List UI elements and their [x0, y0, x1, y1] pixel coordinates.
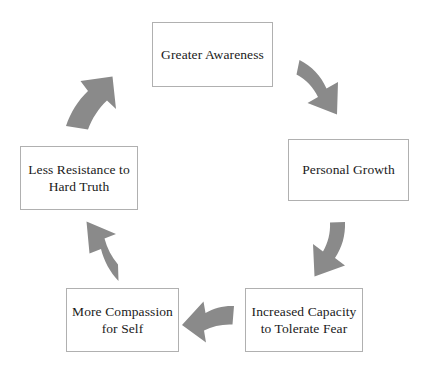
node-label-line2: for Self — [72, 320, 173, 337]
node-label-line1: Increased Capacity — [252, 303, 357, 320]
node-less-resistance: Less Resistance to Hard Truth — [20, 146, 138, 210]
node-label-line2: Hard Truth — [28, 178, 130, 195]
node-greater-awareness: Greater Awareness — [152, 22, 273, 87]
arrow-capacity-to-compassion — [182, 302, 234, 343]
arrow-compassion-to-resistance — [87, 222, 119, 282]
node-label-line1: Greater Awareness — [161, 46, 264, 63]
arrow-resistance-to-awareness — [66, 77, 116, 130]
arrow-awareness-to-growth — [297, 60, 339, 115]
node-increased-capacity: Increased Capacity to Tolerate Fear — [245, 288, 363, 352]
node-personal-growth: Personal Growth — [288, 139, 409, 201]
node-label-line1: Personal Growth — [302, 161, 395, 178]
node-label-line1: Less Resistance to — [28, 161, 130, 178]
node-label-line1: More Compassion — [72, 303, 173, 320]
node-more-compassion: More Compassion for Self — [66, 288, 179, 352]
arrow-growth-to-capacity — [313, 222, 345, 277]
node-label-line2: to Tolerate Fear — [252, 320, 357, 337]
cycle-diagram: Greater Awareness Personal Growth Increa… — [0, 0, 423, 377]
